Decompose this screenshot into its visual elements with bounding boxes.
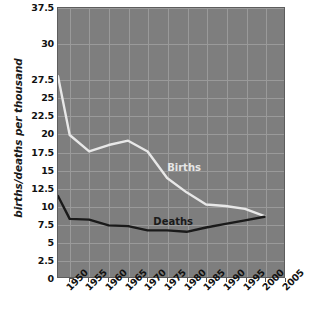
y-axis-tick-label: 5 xyxy=(20,236,54,247)
y-axis-tick-label: 37.5 xyxy=(20,2,54,13)
y-axis-tick-label: 7.5 xyxy=(20,218,54,229)
y-axis-tick-label: 17.5 xyxy=(20,146,54,157)
x-axis-tick-labels: 1950195519601965197019751980198519901995… xyxy=(0,278,309,318)
chart-container: births/deaths per thousand 37.53027.5252… xyxy=(0,0,309,318)
y-axis-tick-label: 20 xyxy=(20,128,54,139)
y-axis-tick-label: 27.5 xyxy=(20,74,54,85)
plot-area xyxy=(57,7,285,278)
series-lines xyxy=(58,8,284,277)
y-axis-tick-labels: 37.53027.52522.52017.51512.5107.552.50 xyxy=(16,0,54,318)
y-axis-tick-label: 15 xyxy=(20,164,54,175)
y-axis-tick-label: 12.5 xyxy=(20,182,54,193)
y-axis-tick-label: 10 xyxy=(20,200,54,211)
y-axis-tick-label: 22.5 xyxy=(20,110,54,121)
series-label-deaths: Deaths xyxy=(153,216,193,227)
series-label-births: Births xyxy=(167,162,201,173)
y-axis-tick-label: 2.5 xyxy=(20,254,54,265)
y-axis-tick-label: 25 xyxy=(20,92,54,103)
y-axis-tick-label: 30 xyxy=(20,38,54,49)
series-line-births xyxy=(58,76,265,216)
